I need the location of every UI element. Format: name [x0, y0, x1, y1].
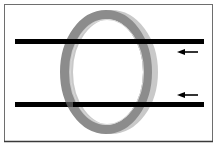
bottom-bar	[15, 102, 204, 107]
ring-conductor-diagram	[0, 0, 217, 145]
top-bar	[15, 39, 204, 44]
diagram-canvas	[0, 0, 217, 145]
frame-border	[5, 5, 213, 142]
